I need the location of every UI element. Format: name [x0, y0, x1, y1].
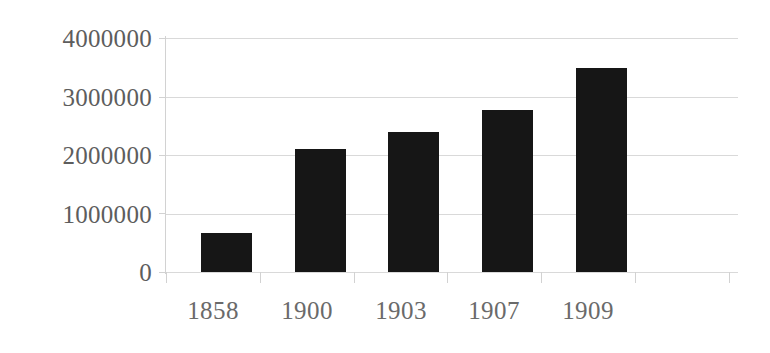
x-axis-tick-mark-6 — [729, 272, 730, 283]
y-axis-tick-mark-0 — [159, 272, 166, 273]
y-axis-tick-label-4000000: 4000000 — [62, 26, 152, 51]
x-axis-label-1909: 1909 — [541, 298, 635, 323]
x-axis-tick-mark-4 — [541, 272, 542, 283]
x-axis-tick-mark-0 — [166, 272, 167, 283]
bar-1900 — [295, 149, 346, 272]
bar-1903 — [388, 132, 439, 272]
gridline-1000000 — [166, 214, 738, 215]
y-axis-tick-label-2000000: 2000000 — [62, 143, 152, 168]
x-axis-label-1907: 1907 — [447, 298, 541, 323]
y-axis-tick-label-1000000: 1000000 — [62, 202, 152, 227]
plot-area — [166, 38, 738, 272]
y-axis-tick-label-3000000: 3000000 — [62, 85, 152, 110]
gridline-0-baseline — [166, 272, 738, 273]
bar-chart: 4000000 3000000 2000000 1000000 0 — [0, 0, 770, 353]
x-axis-tick-mark-5 — [635, 272, 636, 283]
gridline-2000000 — [166, 155, 738, 156]
bar-1907 — [482, 110, 533, 272]
y-axis-tick-mark-4000000 — [159, 38, 166, 39]
bar-1858 — [201, 233, 252, 272]
gridline-3000000 — [166, 97, 738, 98]
bar-1909 — [576, 68, 627, 272]
x-axis-label-1903: 1903 — [354, 298, 448, 323]
x-axis-tick-mark-2 — [354, 272, 355, 283]
y-axis-tick-mark-1000000 — [159, 213, 166, 214]
x-axis-tick-mark-3 — [447, 272, 448, 283]
x-axis-label-1858: 1858 — [166, 298, 260, 323]
y-axis-tick-mark-3000000 — [159, 97, 166, 98]
x-axis-label-1900: 1900 — [260, 298, 354, 323]
y-axis-tick-mark-2000000 — [159, 155, 166, 156]
chart-screenshot: 4000000 3000000 2000000 1000000 0 — [0, 0, 770, 353]
y-axis-tick-label-0: 0 — [139, 260, 152, 285]
gridline-4000000 — [166, 38, 738, 39]
x-axis-tick-mark-1 — [260, 272, 261, 283]
